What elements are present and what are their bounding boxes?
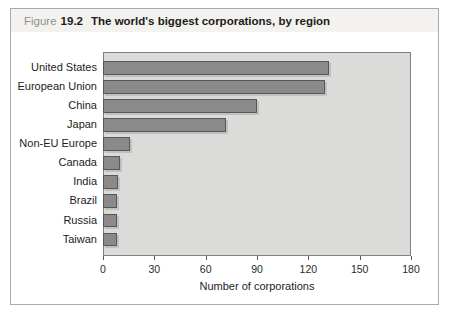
- x-tick-mark: [103, 256, 104, 260]
- category-label: China: [11, 99, 97, 113]
- figure-header: Figure 19.2 The world's biggest corporat…: [11, 9, 438, 32]
- bar: [103, 156, 120, 170]
- x-tick-label: 180: [391, 263, 431, 275]
- x-tick-mark: [154, 256, 155, 260]
- x-tick-label: 30: [134, 263, 174, 275]
- x-tick-label: 60: [186, 263, 226, 275]
- bar: [103, 233, 117, 247]
- category-label: Japan: [11, 118, 97, 132]
- x-axis-title: Number of corporations: [103, 280, 411, 292]
- x-tick-mark: [411, 256, 412, 260]
- bar: [103, 118, 226, 132]
- figure-word: Figure: [24, 15, 57, 27]
- page: Figure 19.2 The world's biggest corporat…: [0, 0, 450, 318]
- figure-number: 19.2: [61, 15, 83, 27]
- bar: [103, 80, 325, 94]
- bar: [103, 214, 117, 228]
- bar: [103, 99, 257, 113]
- x-tick-label: 0: [83, 263, 123, 275]
- category-label: India: [11, 175, 97, 189]
- bar: [103, 175, 118, 189]
- x-tick-mark: [206, 256, 207, 260]
- category-label: Canada: [11, 156, 97, 170]
- x-tick-mark: [360, 256, 361, 260]
- category-label: Brazil: [11, 194, 97, 208]
- bar: [103, 61, 329, 75]
- category-label: United States: [11, 61, 97, 75]
- category-label: European Union: [11, 80, 97, 94]
- figure-title: The world's biggest corporations, by reg…: [91, 15, 330, 27]
- x-tick-mark: [257, 256, 258, 260]
- figure-panel: Figure 19.2 The world's biggest corporat…: [10, 8, 439, 305]
- category-label: Non-EU Europe: [11, 137, 97, 151]
- category-label: Taiwan: [11, 233, 97, 247]
- category-label: Russia: [11, 214, 97, 228]
- x-tick-mark: [308, 256, 309, 260]
- x-tick-label: 150: [340, 263, 380, 275]
- bar: [103, 137, 130, 151]
- bar: [103, 194, 117, 208]
- x-tick-label: 120: [288, 263, 328, 275]
- x-tick-label: 90: [237, 263, 277, 275]
